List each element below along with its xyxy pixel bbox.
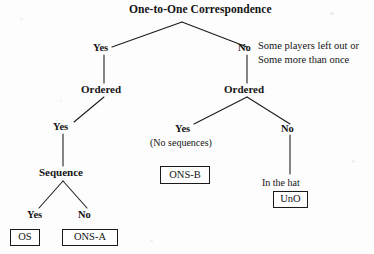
leaf-box-ons-b: ONS-B xyxy=(160,166,210,184)
edge-ordered-right-no xyxy=(247,97,290,124)
annotation-no-root: Some players left out or Some more than … xyxy=(258,39,359,67)
decision-node-ordered-right: Ordered xyxy=(224,84,264,95)
edge-sequence-no xyxy=(63,181,87,208)
branch-label-no-sequence: No xyxy=(78,210,91,221)
annotation-no-sequences: (No sequences) xyxy=(150,138,212,148)
branch-label-yes-ordered-right: Yes xyxy=(175,124,190,135)
branch-label-yes-sequence: Yes xyxy=(27,210,42,221)
branch-label-no-root: No xyxy=(238,43,251,54)
branch-label-yes-root: Yes xyxy=(93,43,108,54)
leaf-box-os: OS xyxy=(10,229,40,246)
edge-ordered-left-yes xyxy=(74,97,104,122)
decision-node-ordered-left: Ordered xyxy=(81,84,121,95)
edge-root-yes xyxy=(112,22,182,47)
decision-node-sequence: Sequence xyxy=(39,167,83,178)
leaf-box-ons-a: ONS-A xyxy=(62,229,118,246)
branch-label-yes-ordered-left: Yes xyxy=(53,122,68,133)
edge-ordered-right-yes xyxy=(194,97,247,124)
page-title: One-to-One Correspondence xyxy=(129,4,272,16)
annotation-in-the-hat: In the hat xyxy=(262,178,300,188)
decision-tree-diagram: One-to-One Correspondence Yes No Some pl… xyxy=(0,0,374,254)
edge-sequence-yes xyxy=(39,181,63,208)
leaf-box-uno: UnO xyxy=(273,191,308,208)
branch-label-no-ordered-right: No xyxy=(281,124,294,135)
